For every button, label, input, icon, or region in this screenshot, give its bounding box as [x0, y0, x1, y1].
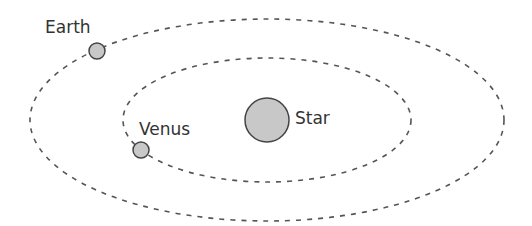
solar-system-diagram: Earth Venus Star	[0, 0, 532, 226]
earth-label: Earth	[45, 19, 91, 36]
star-label: Star	[295, 110, 330, 127]
venus-body	[133, 142, 149, 158]
earth-body	[89, 43, 105, 59]
venus-label: Venus	[139, 121, 190, 138]
star-body	[245, 98, 289, 142]
